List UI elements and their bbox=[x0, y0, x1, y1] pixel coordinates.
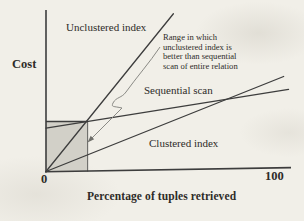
chart-canvas bbox=[0, 0, 304, 221]
annotation-text: Range in which unclustered index is bett… bbox=[163, 33, 238, 71]
y-axis-label: Cost bbox=[12, 57, 36, 72]
x-tick-100: 100 bbox=[265, 169, 284, 184]
sequential-scan-label: Sequential scan bbox=[144, 84, 213, 96]
x-tick-0: 0 bbox=[41, 172, 47, 187]
clustered-index-label: Clustered index bbox=[149, 137, 218, 149]
unclustered-index-label: Unclustered index bbox=[66, 21, 146, 33]
x-axis-title: Percentage of tuples retrieved bbox=[87, 190, 236, 202]
cost-vs-percentage-figure: Cost Unclustered index Range in which un… bbox=[0, 0, 304, 221]
